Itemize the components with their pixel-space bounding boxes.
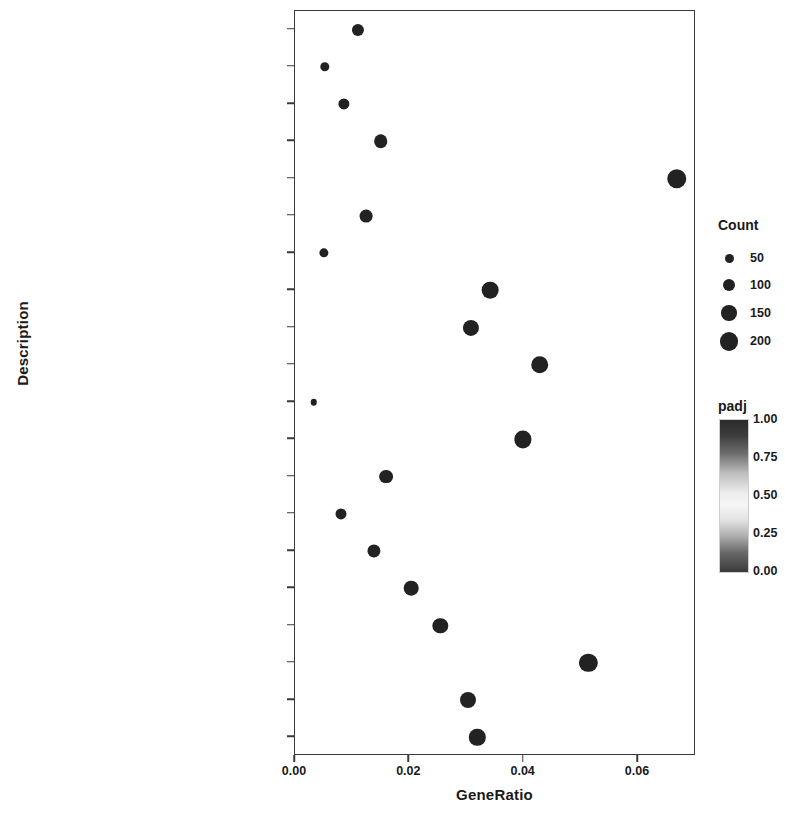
count-legend-key: 100: [714, 278, 771, 292]
y-axis-tick-mark: [287, 177, 294, 179]
y-axis-tick-mark: [287, 140, 294, 142]
x-axis-tick-label: 0.06: [625, 764, 649, 778]
y-axis-title: Description: [14, 284, 31, 404]
data-point: [374, 135, 388, 149]
count-legend-key-label: 200: [750, 334, 771, 348]
y-axis-tick-mark: [287, 289, 294, 291]
count-legend-dot-icon: [714, 279, 744, 292]
y-axis-tick-mark: [287, 251, 294, 253]
data-point: [379, 470, 393, 484]
x-axis-tick-mark: [293, 755, 295, 762]
data-point: [514, 431, 531, 448]
y-axis-tick-mark: [287, 326, 294, 328]
dotplot-figure: Description PertussisFatty acid degradat…: [0, 0, 785, 814]
x-axis-tick-mark: [408, 755, 410, 762]
y-axis-tick-mark: [287, 587, 294, 589]
y-axis-tick-mark: [287, 28, 294, 30]
y-axis-tick-mark: [287, 698, 294, 700]
data-point: [319, 248, 328, 257]
y-axis-tick-mark: [287, 400, 294, 402]
count-legend-title: Count: [718, 217, 758, 233]
data-point: [336, 508, 347, 519]
y-axis-tick-mark: [287, 65, 294, 67]
count-legend-dot-icon: [714, 332, 744, 351]
data-point: [460, 692, 476, 708]
x-axis-tick-mark: [522, 755, 524, 762]
count-legend-key-label: 50: [750, 251, 764, 265]
data-point: [359, 209, 372, 222]
count-legend-dot-icon: [714, 254, 744, 263]
data-point: [482, 282, 499, 299]
x-axis-tick-label: 0.02: [396, 764, 420, 778]
padj-legend-tick-label: 1.00: [753, 412, 777, 426]
count-legend-dot-icon: [714, 305, 744, 321]
data-point: [367, 545, 380, 558]
x-axis-title: GeneRatio: [294, 786, 695, 803]
data-point: [352, 24, 364, 36]
data-point: [469, 729, 485, 745]
y-axis-tick-mark: [287, 475, 294, 477]
count-legend-key: 50: [714, 251, 764, 265]
y-axis-tick-mark: [287, 624, 294, 626]
count-legend-key-label: 100: [750, 278, 771, 292]
y-axis-tick-mark: [287, 736, 294, 738]
data-point: [463, 320, 479, 336]
data-point: [667, 169, 687, 189]
data-point: [433, 618, 448, 633]
padj-legend-tick-label: 0.50: [753, 488, 777, 502]
data-point: [339, 99, 350, 110]
y-axis-tick-mark: [287, 363, 294, 365]
y-axis-tick-mark: [287, 512, 294, 514]
x-axis-tick-label: 0.04: [510, 764, 534, 778]
data-point: [404, 581, 419, 596]
data-point: [320, 62, 329, 71]
padj-legend-tick-label: 0.75: [753, 450, 777, 464]
data-point: [579, 654, 597, 672]
y-axis-tick-mark: [287, 102, 294, 104]
y-axis-tick-mark: [287, 438, 294, 440]
data-point: [311, 399, 318, 406]
x-axis-tick-mark: [636, 755, 638, 762]
padj-colorbar: [719, 419, 749, 573]
y-axis-tick-mark: [287, 214, 294, 216]
padj-legend-title: padj: [718, 398, 747, 414]
y-axis-tick-mark: [287, 549, 294, 551]
plot-panel: [294, 10, 695, 755]
padj-legend-tick-label: 0.00: [753, 564, 777, 578]
count-legend-key: 150: [714, 305, 771, 321]
padj-legend-tick-label: 0.25: [753, 526, 777, 540]
x-axis-tick-label: 0.00: [282, 764, 306, 778]
data-point: [531, 356, 549, 374]
y-axis-tick-mark: [287, 661, 294, 663]
count-legend-key-label: 150: [750, 306, 771, 320]
count-legend-key: 200: [714, 332, 771, 351]
